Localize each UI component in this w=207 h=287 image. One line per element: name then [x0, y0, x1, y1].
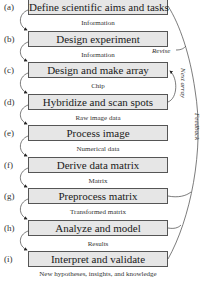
step-letter-a: (a) — [4, 2, 14, 12]
feedback-label: Feedback — [193, 113, 201, 140]
step-box-define-aims: Define scientific aims and tasks — [28, 0, 168, 15]
connector-label-h-i: Results — [28, 240, 168, 248]
revise-line — [176, 46, 186, 50]
step-letter-d: (d) — [4, 97, 15, 107]
flow-arrow-d-e — [20, 105, 28, 124]
flow-arrow-e-f — [20, 136, 28, 156]
step-letter-f: (f) — [4, 160, 13, 170]
final-output-label: New hypotheses, insights, and knowledge — [28, 270, 168, 279]
step-letter-b: (b) — [4, 34, 15, 44]
step-box-process-image: Process image — [28, 125, 168, 141]
step-box-derive-matrix: Derive data matrix — [28, 157, 168, 173]
step-box-analyze-model: Analyze and model — [28, 220, 168, 236]
flow-arrow-a-b — [20, 10, 28, 30]
connector-label-e-f: Numerical data — [28, 145, 168, 153]
flow-arrow-f-g — [20, 168, 28, 187]
revise-label: Revise — [152, 47, 170, 55]
step-box-design-experiment: Design experiment — [28, 31, 168, 47]
step-box-interpret-validate: Interpret and validate — [28, 251, 168, 267]
feedback-branch-h — [168, 225, 181, 228]
step-letter-c: (c) — [4, 65, 14, 75]
step-letter-i: (i) — [4, 254, 13, 264]
feedback-branch-g — [168, 192, 191, 197]
next-array-label: Next array — [179, 68, 187, 98]
flow-arrow-g-h — [20, 199, 28, 219]
step-box-design-array: Design and make array — [28, 62, 168, 78]
connector-label-c-d: Chip — [28, 82, 168, 90]
connector-label-b-c: Information — [28, 51, 168, 59]
step-letter-g: (g) — [4, 191, 15, 201]
connector-label-d-e: Raw image data — [28, 114, 168, 122]
connector-label-f-g: Matrix — [28, 177, 168, 185]
step-box-preprocess-matrix: Preprocess matrix — [28, 188, 168, 204]
flow-arrow-b-c — [20, 42, 28, 61]
step-letter-h: (h) — [4, 223, 15, 233]
connector-label-a-b: Information — [28, 19, 168, 27]
next-array-arrow — [168, 71, 176, 102]
flow-arrow-c-d — [20, 73, 28, 93]
connector-label-g-h: Transformed matrix — [28, 208, 168, 216]
step-box-hybridize-scan: Hybridize and scan spots — [28, 94, 168, 110]
flow-arrow-h-i — [20, 231, 28, 250]
step-letter-e: (e) — [4, 128, 14, 138]
